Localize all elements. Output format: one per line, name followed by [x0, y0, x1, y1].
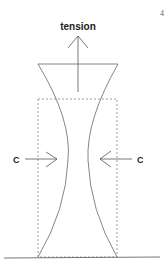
compression-arrow-right-icon — [100, 151, 132, 167]
page-number: 4 — [160, 9, 164, 18]
compression-label-left: C — [13, 155, 20, 165]
ground-line — [4, 257, 160, 258]
compression-label-right: C — [137, 155, 144, 165]
hourglass-tension-diagram: 4 tension C C — [0, 0, 168, 269]
compression-arrow-left-icon — [25, 152, 57, 167]
hourglass-shape — [38, 64, 118, 257]
tension-label: tension — [60, 21, 96, 32]
